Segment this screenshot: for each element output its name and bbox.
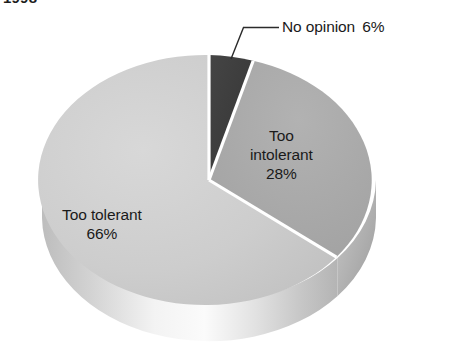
label-too-tolerant: Too tolerant 66%: [62, 205, 142, 243]
label-no-opinion: No opinion6%: [282, 17, 384, 36]
pie-chart-graphic: [0, 0, 460, 357]
label-no-opinion-name: No opinion: [282, 18, 355, 35]
label-too-intolerant: Too intolerant 28%: [250, 126, 313, 183]
label-too-tolerant-value: 66%: [62, 224, 142, 243]
label-too-intolerant-value: 28%: [250, 164, 313, 183]
label-too-intolerant-name-line1: Too: [250, 126, 313, 145]
pie-top-face: [38, 55, 372, 305]
label-too-intolerant-name-line2: intolerant: [250, 145, 313, 164]
label-too-tolerant-name: Too tolerant: [62, 205, 142, 224]
label-no-opinion-value: 6%: [362, 18, 384, 35]
pie-chart-figure: 1998: [0, 0, 460, 357]
no-opinion-leader-line: [231, 28, 279, 60]
